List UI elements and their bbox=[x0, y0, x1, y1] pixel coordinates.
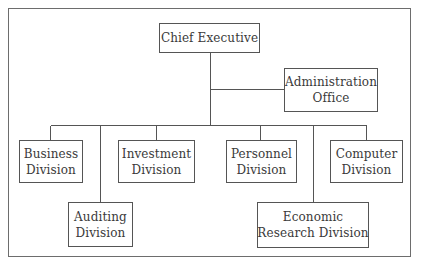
node-label-line2: Division bbox=[26, 162, 76, 178]
node-chief-executive: Chief Executive bbox=[159, 23, 260, 53]
node-label-line2: Research Division bbox=[257, 225, 368, 241]
node-label-line1: Economic bbox=[283, 209, 343, 225]
node-label-line1: Auditing bbox=[74, 209, 127, 225]
node-investment-division: Investment Division bbox=[118, 140, 195, 183]
node-label-line1: Business bbox=[24, 146, 79, 162]
node-administration-office: Administration Office bbox=[284, 68, 378, 112]
node-computer-division: Computer Division bbox=[330, 140, 403, 183]
node-personnel-division: Personnel Division bbox=[226, 140, 297, 183]
node-label-line1: Administration bbox=[285, 74, 377, 90]
node-label-line2: Division bbox=[132, 162, 182, 178]
node-auditing-division: Auditing Division bbox=[68, 202, 133, 247]
node-label-line1: Investment bbox=[122, 146, 191, 162]
node-label-line2: Office bbox=[313, 90, 350, 106]
node-label-line1: Personnel bbox=[231, 146, 292, 162]
node-business-division: Business Division bbox=[19, 140, 83, 183]
node-label: Chief Executive bbox=[161, 30, 258, 46]
node-label-line2: Division bbox=[76, 225, 126, 241]
node-label-line2: Division bbox=[237, 162, 287, 178]
node-label-line2: Division bbox=[342, 162, 392, 178]
node-label-line1: Computer bbox=[336, 146, 398, 162]
node-economic-research-division: Economic Research Division bbox=[257, 202, 369, 248]
